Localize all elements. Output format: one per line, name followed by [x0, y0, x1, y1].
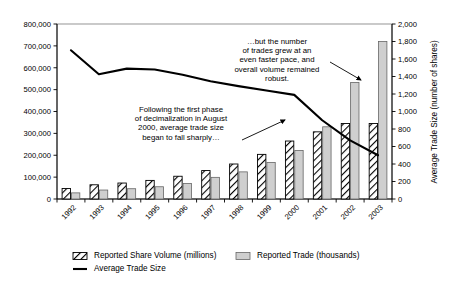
- chart-container: 0100,000200,000300,000400,000500,000600,…: [0, 0, 462, 285]
- y-axis-left-tick-label: 200,000: [24, 151, 51, 160]
- y-axis-right-tick-label: 1,000: [398, 107, 417, 116]
- trading-volume-chart: 0100,000200,000300,000400,000500,000600,…: [0, 0, 462, 285]
- y-axis-right-tick-label: 0: [398, 195, 402, 204]
- annotation-decimalization-line: 2000, average trade size: [138, 123, 224, 132]
- y-axis-right-tick-label: 1,400: [398, 72, 417, 81]
- annotation-trade-growth-line: even faster pace, and: [240, 55, 315, 64]
- annotation-trade-growth-line: of trades grew at an: [243, 46, 312, 55]
- annotation-decimalization-line: began to fall sharply…: [142, 133, 220, 142]
- legend-label: Reported Share Volume (millions): [94, 251, 217, 260]
- y-axis-right-tick-label: 1,200: [398, 90, 417, 99]
- bar-reported-share-volume: [202, 171, 210, 199]
- bar-reported-trade: [99, 190, 107, 199]
- y-axis-right-tick-label: 2,000: [398, 20, 417, 29]
- y-axis-left-tick-label: 0: [47, 195, 51, 204]
- bar-reported-trade: [155, 187, 163, 199]
- y-axis-left-tick-label: 500,000: [24, 85, 51, 94]
- y-axis-right-tick-label: 1,800: [398, 37, 417, 46]
- bar-reported-share-volume: [118, 183, 126, 199]
- annotation-trade-growth-line: …but the number: [247, 37, 308, 46]
- bar-reported-share-volume: [258, 154, 266, 199]
- y-axis-left-tick-label: 700,000: [24, 42, 51, 51]
- y-axis-right-tick-label: 1,600: [398, 55, 417, 64]
- y-axis-left-tick-label: 100,000: [24, 173, 51, 182]
- chart-background: [0, 0, 462, 285]
- y-axis-left-tick-label: 400,000: [24, 107, 51, 116]
- y-axis-right-tick-label: 400: [398, 160, 411, 169]
- bar-reported-share-volume: [230, 164, 238, 199]
- bar-reported-trade: [323, 127, 331, 199]
- y-axis-left-tick-label: 300,000: [24, 129, 51, 138]
- bar-reported-share-volume: [285, 141, 293, 199]
- y-axis-right-tick-label: 800: [398, 125, 411, 134]
- bar-reported-trade: [127, 189, 135, 199]
- y-axis-left-tick-label: 600,000: [24, 64, 51, 73]
- bar-reported-trade: [71, 193, 79, 199]
- annotation-decimalization-line: of decimalization in August: [135, 114, 228, 123]
- legend-label: Reported Trade (thousands): [257, 251, 360, 260]
- legend-label: Average Trade Size: [94, 264, 166, 273]
- bar-reported-trade: [379, 42, 387, 200]
- bar-reported-share-volume: [62, 189, 70, 200]
- bar-reported-share-volume: [90, 185, 98, 199]
- annotation-trade-growth-line: robust.: [265, 74, 289, 83]
- bar-reported-share-volume: [146, 180, 154, 199]
- y-axis-right-tick-label: 600: [398, 142, 411, 151]
- bar-reported-trade: [267, 162, 275, 199]
- bar-reported-share-volume: [369, 124, 377, 199]
- legend-swatch-reported-trade: [236, 253, 250, 260]
- bar-reported-share-volume: [313, 132, 321, 199]
- y-axis-right-tick-label: 200: [398, 177, 411, 186]
- bar-reported-trade: [211, 177, 219, 199]
- annotation-trade-growth-line: overall volume remained: [235, 65, 320, 74]
- legend-swatch-share-volume: [73, 253, 87, 260]
- bar-reported-share-volume: [174, 176, 182, 199]
- y-axis-right-title: Average Trade Size (number of shares): [430, 40, 439, 183]
- bar-reported-trade: [183, 183, 191, 199]
- bar-reported-trade: [295, 150, 303, 199]
- annotation-decimalization-line: Following the first phase: [139, 105, 223, 114]
- bar-reported-trade: [239, 172, 247, 199]
- y-axis-left-tick-label: 800,000: [24, 20, 51, 29]
